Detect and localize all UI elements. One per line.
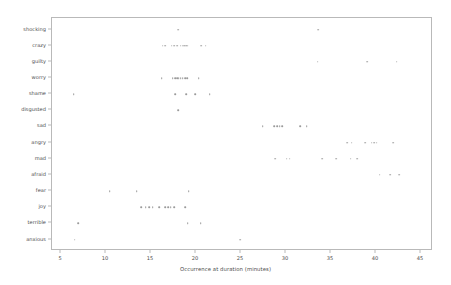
data-point [376, 142, 378, 144]
data-point [187, 223, 189, 225]
y-axis-tick-mark [48, 76, 51, 77]
x-axis-tick-label-45: 45 [417, 255, 423, 261]
data-point [74, 239, 76, 241]
data-point [148, 206, 150, 208]
data-point [321, 158, 323, 160]
data-point [366, 61, 368, 63]
data-point [390, 174, 392, 176]
data-point [170, 206, 172, 208]
data-point [158, 206, 160, 208]
data-point [182, 77, 184, 79]
data-point [306, 126, 308, 128]
y-axis-tick-mark [48, 28, 51, 29]
x-axis-title: Occurrence at duration (minutes) [0, 266, 451, 272]
data-point [318, 29, 320, 31]
y-axis-tick-label-shocking: shocking [23, 26, 46, 32]
y-axis-tick-label-shame: shame [29, 90, 46, 96]
data-point [198, 77, 200, 79]
y-axis-tick-mark [48, 93, 51, 94]
data-point [174, 45, 176, 47]
data-point [373, 142, 375, 144]
plot-frame [51, 17, 432, 250]
x-axis-tick-label-5: 5 [58, 255, 61, 261]
y-axis-tick-mark [48, 141, 51, 142]
y-axis-tick-label-terrible: terrible [28, 219, 46, 225]
y-axis-tick-label-worry: worry [32, 74, 46, 80]
data-point [396, 61, 398, 63]
data-point [194, 93, 196, 95]
data-point [172, 77, 174, 79]
y-axis-tick-mark [48, 222, 51, 223]
data-point [184, 206, 186, 208]
data-point [371, 142, 373, 144]
data-point [200, 223, 202, 225]
data-point [274, 126, 276, 128]
x-axis-tick-label-25: 25 [237, 255, 243, 261]
x-axis-tick-mark [240, 250, 241, 253]
data-point [276, 126, 278, 128]
x-axis-tick-mark [420, 250, 421, 253]
data-point [165, 45, 167, 47]
data-point [73, 93, 75, 95]
data-point [392, 142, 394, 144]
y-axis-tick-label-anxious: anxious [26, 236, 46, 242]
y-axis-tick-mark [48, 173, 51, 174]
data-point [152, 206, 154, 208]
data-point [239, 239, 241, 241]
data-point [356, 158, 358, 160]
data-point [77, 223, 79, 225]
data-point [399, 174, 401, 176]
data-point [350, 158, 352, 160]
data-point [364, 142, 366, 144]
y-axis-tick-label-guilty: guilty [32, 58, 46, 64]
y-axis-tick-label-angry: angry [31, 139, 46, 145]
x-axis-tick-label-30: 30 [282, 255, 288, 261]
data-point [336, 158, 338, 160]
data-point [167, 206, 169, 208]
x-axis-tick-label-10: 10 [102, 255, 108, 261]
x-axis-tick-label-20: 20 [192, 255, 198, 261]
data-point [209, 93, 211, 95]
x-axis-tick-mark [150, 250, 151, 253]
y-axis-tick-mark [48, 60, 51, 61]
data-point [300, 126, 302, 128]
data-point [177, 109, 179, 111]
data-point [379, 174, 381, 176]
data-point [317, 61, 319, 63]
data-point [351, 142, 353, 144]
data-point [186, 77, 188, 79]
x-axis-tick-mark [105, 250, 106, 253]
data-point [109, 190, 111, 192]
data-point [262, 126, 264, 128]
y-axis-tick-mark [48, 190, 51, 191]
data-point [187, 45, 189, 47]
x-axis-tick-label-15: 15 [147, 255, 153, 261]
x-axis-tick-mark [330, 250, 331, 253]
y-axis-tick-label-afraid: afraid [31, 171, 46, 177]
plot-area [52, 18, 431, 249]
y-axis-tick-mark [48, 109, 51, 110]
data-point [346, 142, 348, 144]
data-point [136, 190, 138, 192]
data-point [174, 206, 176, 208]
data-point [279, 126, 281, 128]
y-axis-tick-label-joy: joy [38, 203, 46, 209]
data-point [165, 206, 167, 208]
data-point [176, 45, 178, 47]
y-axis-tick-mark [48, 44, 51, 45]
y-axis-tick-label-disgusted: disgusted [21, 106, 46, 112]
data-point [177, 29, 179, 31]
y-axis-tick-mark [48, 206, 51, 207]
y-axis-tick-label-crazy: crazy [32, 42, 46, 48]
y-axis-tick-label-mad: mad [35, 155, 46, 161]
data-point [145, 206, 147, 208]
y-axis-tick-label-sad: sad [37, 122, 46, 128]
data-point [205, 45, 207, 47]
x-axis-tick-mark [195, 250, 196, 253]
x-axis-tick-mark [285, 250, 286, 253]
data-point [201, 45, 203, 47]
x-axis-tick-label-35: 35 [327, 255, 333, 261]
data-point [286, 158, 288, 160]
scatter-chart: shockingcrazyguiltyworryshamedisgustedsa… [0, 0, 451, 285]
data-point [175, 93, 177, 95]
